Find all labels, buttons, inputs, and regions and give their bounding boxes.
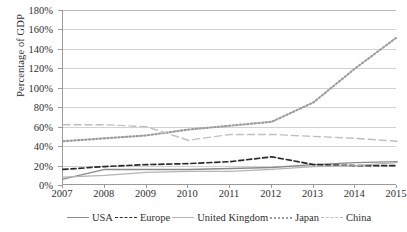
x-tick-label-2014: 2014 [344,188,365,199]
dotted-line-icon [270,213,292,221]
x-tick-mark-2009 [146,185,147,188]
x-tick-mark-2008 [104,185,105,188]
series-line-usa [63,162,397,180]
legend-item-europe[interactable]: Europe [115,212,172,223]
x-tick-mark-2010 [187,185,188,188]
x-tick-mark-2011 [229,185,230,188]
dashed-line-icon [115,213,137,221]
x-tick-label-2012: 2012 [260,188,281,199]
solid-line-icon [67,213,89,221]
x-tick-mark-2013 [313,185,314,188]
x-tick-mark-2007 [62,185,63,188]
y-tick-label-120: 120% [29,63,54,74]
legend-label: Japan [292,212,321,223]
y-tick-label-80: 80% [34,102,53,113]
legend-label: United Kingdom [194,212,270,223]
x-tick-label-2015: 2015 [386,188,407,199]
series-lines-group [63,10,397,185]
legend-label: USA [89,212,115,223]
solid-line-icon [172,213,194,221]
legend-label: China [343,212,373,223]
legend-item-united-kingdom[interactable]: United Kingdom [172,212,270,223]
x-tick-mark-2012 [271,185,272,188]
legend-item-china[interactable]: China [321,212,373,223]
y-tick-label-180: 180% [29,5,54,16]
x-axis-tick-labels: 200720082009201020112012201320142015 [62,188,396,204]
legend-item-japan[interactable]: Japan [270,212,321,223]
y-tick-label-40: 40% [34,141,53,152]
plot-area [62,10,396,185]
y-tick-label-160: 160% [29,24,54,35]
y-tick-label-20: 20% [34,160,53,171]
x-tick-label-2007: 2007 [52,188,73,199]
x-tick-label-2010: 2010 [177,188,198,199]
long-dashed-line-icon [321,213,343,221]
y-tick-label-140: 140% [29,43,54,54]
y-tick-label-60: 60% [34,121,53,132]
legend-item-usa[interactable]: USA [67,212,115,223]
y-tick-label-100: 100% [29,82,54,93]
x-tick-mark-2014 [354,185,355,188]
x-tick-label-2008: 2008 [93,188,114,199]
legend-label: Europe [137,212,172,223]
series-line-china [63,125,397,142]
y-axis-tick-labels: 0%20%40%60%80%100%120%140%160%180% [0,0,60,200]
x-tick-label-2013: 2013 [302,188,323,199]
chart-legend: USAEuropeUnited KingdomJapanChina [40,206,400,228]
x-tick-label-2011: 2011 [219,188,240,199]
x-tick-mark-2015 [396,185,397,188]
x-tick-label-2009: 2009 [135,188,156,199]
